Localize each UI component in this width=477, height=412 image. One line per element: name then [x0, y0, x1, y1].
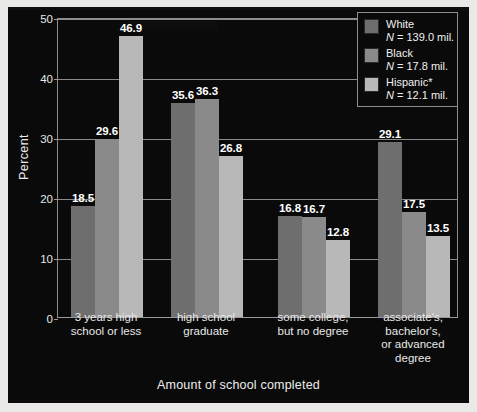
x-axis-title: Amount of school completed	[8, 378, 469, 392]
bar-value-label: 18.5	[72, 192, 94, 204]
y-axis-tick-label: 20	[40, 193, 53, 205]
bar-value-label: 29.1	[379, 128, 401, 140]
bar: 35.6	[171, 103, 195, 317]
legend-swatch	[364, 48, 379, 63]
bar: 12.8	[326, 240, 350, 317]
bar: 17.5	[402, 212, 426, 317]
y-axis-tick-mark	[54, 19, 58, 20]
y-axis-tick-mark	[54, 79, 58, 80]
bar: 16.8	[278, 216, 302, 317]
legend-text: Hispanic*N = 12.1 mil.	[386, 76, 448, 101]
legend-series-name: Black	[386, 47, 448, 60]
bar-value-label: 46.9	[120, 22, 142, 34]
legend-series-name: White	[386, 18, 454, 31]
bar: 26.8	[219, 156, 243, 317]
legend-text: BlackN = 17.8 mil.	[386, 47, 448, 72]
bar-value-label: 36.3	[196, 85, 218, 97]
legend-series-count: N = 139.0 mil.	[386, 31, 454, 44]
x-axis-category-label: associate's, bachelor's, or advanced deg…	[353, 311, 469, 365]
bar-value-label: 35.6	[172, 89, 194, 101]
y-axis-tick-label: 50	[40, 13, 53, 25]
bar-value-label: 26.8	[220, 142, 242, 154]
x-axis-category-label: high school graduate	[146, 311, 266, 338]
scan-artifact	[8, 7, 469, 10]
bar-value-label: 17.5	[403, 198, 425, 210]
bar: 13.5	[426, 236, 450, 317]
bar-value-label: 16.8	[279, 202, 301, 214]
bar: 29.1	[378, 142, 402, 317]
legend-series-name: Hispanic*	[386, 76, 448, 89]
legend-item: WhiteN = 139.0 mil.	[364, 18, 453, 43]
y-axis-tick-label: 30	[40, 133, 53, 145]
legend-item: BlackN = 17.8 mil.	[364, 47, 453, 72]
legend-item: Hispanic*N = 12.1 mil.	[364, 76, 453, 101]
legend-swatch	[364, 77, 379, 92]
y-axis-tick-label: 10	[40, 253, 53, 265]
legend-text: WhiteN = 139.0 mil.	[386, 18, 454, 43]
y-axis-tick-mark	[54, 199, 58, 200]
bar-value-label: 12.8	[327, 226, 349, 238]
legend-series-count: N = 12.1 mil.	[386, 89, 448, 102]
bar: 29.6	[95, 139, 119, 317]
y-axis-tick-mark	[54, 139, 58, 140]
bar: 18.5	[71, 206, 95, 317]
bar-value-label: 16.7	[303, 203, 325, 215]
legend-swatch	[364, 19, 379, 34]
y-axis-tick-mark	[54, 259, 58, 260]
bar: 16.7	[302, 217, 326, 317]
y-axis-title: Percent	[17, 134, 31, 180]
bar: 46.9	[119, 36, 143, 317]
y-axis-tick-label: 40	[40, 73, 53, 85]
chart-figure: Percent 01020304050 18.529.646.935.636.3…	[8, 7, 469, 403]
legend-series-count: N = 17.8 mil.	[386, 60, 448, 73]
legend: WhiteN = 139.0 mil.BlackN = 17.8 mil.His…	[357, 12, 458, 107]
bar: 36.3	[195, 99, 219, 317]
bar-value-label: 13.5	[427, 222, 449, 234]
bar-value-label: 29.6	[96, 125, 118, 137]
